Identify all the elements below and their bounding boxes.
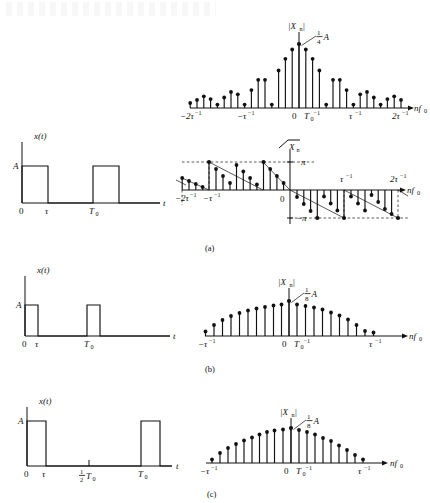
magnitude-b-label-bar2: | xyxy=(293,277,295,287)
phase-a-y-axis-label: X n xyxy=(279,140,300,153)
phase-tick-2tau: 2τ −1 xyxy=(390,172,407,184)
waveform-c-tick-tau: τ xyxy=(42,469,46,479)
tick-2tau-inv-a: 2τ −1 xyxy=(392,109,409,121)
tick-label-T0-a: T xyxy=(304,111,310,121)
tick-tau-inv-b: τ −1 xyxy=(369,337,382,349)
panel-a-phase-chart: X n π 0 −π −2τ −1 −τ −1 τ −1 2τ −1 xyxy=(175,140,420,224)
phase-a-tick-label-zero: 0 xyxy=(280,194,285,204)
waveform-c-tick-halfT0: 1 2 T 0 xyxy=(79,468,96,483)
waveform-a-pulse-train xyxy=(22,166,160,203)
phase-tick-neg2tau: −2τ −1 xyxy=(175,191,197,203)
magnitude-b-label-bar1: |X xyxy=(278,277,286,287)
magnitude-b-x-arrow xyxy=(402,334,408,339)
figure-canvas: |X n | 1 4 A −2τ −1 −τ −1 0 xyxy=(0,0,430,503)
magnitude-b-y-axis-label: |X n | xyxy=(278,277,295,288)
magnitude-c-y-axis-label: |X n | xyxy=(280,407,297,418)
caption-a: (a) xyxy=(205,243,215,253)
waveform-c-amplitude-label: A xyxy=(17,416,24,426)
peak-c-fraction-denominator: 8 xyxy=(307,422,311,430)
waveform-a-y-label: x(t) xyxy=(33,131,47,141)
panel-b-waveform-chart: x(t) A 0 τ T 0 t xyxy=(15,265,176,350)
peak-b-fraction-numerator: 1 xyxy=(305,286,309,294)
magnitude-b-x-axis-name: nf 0 xyxy=(409,331,422,342)
tick-label-tau-b: τ xyxy=(369,339,373,349)
panel-b-magnitude-chart: |X n | 1 8 A −τ −1 0 T 0 −1 τ −1 xyxy=(198,277,422,350)
magnitude-c-label-bar1: |X xyxy=(280,407,288,417)
peak-a-amplitude-symbol: A xyxy=(323,32,330,42)
phase-a-x-axis-name: nf 0 xyxy=(407,185,420,196)
phase-a-tick-label-pi: π xyxy=(301,157,306,167)
panel-c-magnitude-chart: |X n | 1 8 A −τ −1 0 T 0 −1 τ −1 xyxy=(200,407,403,477)
caption-b: (b) xyxy=(205,364,215,374)
waveform-c-tick-zero: 0 xyxy=(24,469,29,479)
panel-c-waveform-chart: x(t) A 0 τ 1 2 T 0 T 0 t xyxy=(17,396,179,483)
magnitude-c-x-axis-name: nf 0 xyxy=(390,458,403,469)
waveform-b-y-label: x(t) xyxy=(36,265,50,275)
tick-sub-T0-c: 0 xyxy=(303,470,306,477)
waveform-a-tick-T0-sub: 0 xyxy=(96,210,99,217)
peak-a-fraction-denominator: 4 xyxy=(317,38,321,46)
waveform-c-y-label: x(t) xyxy=(38,396,52,406)
phase-a-tick-label-negpi: −π xyxy=(296,213,307,223)
tick-tau-inv-c: τ −1 xyxy=(358,464,371,476)
axis-name-nf-sub-a: 0 xyxy=(424,107,427,114)
tick-label-tau-c: τ xyxy=(358,466,362,476)
magnitude-a-label-bar2: | xyxy=(303,21,305,31)
panel-a-magnitude-chart: |X n | 1 4 A −2τ −1 −τ −1 0 xyxy=(180,21,427,122)
tick-sup-tau-b: −1 xyxy=(375,337,382,344)
tick-neg-2tau-inv-a: −2τ −1 xyxy=(180,109,202,121)
phase-tick-label-tau: τ xyxy=(340,174,344,184)
waveform-a-tick-T0: T 0 xyxy=(89,206,99,217)
magnitude-c-label-bar2: | xyxy=(295,407,297,417)
waveform-c-x-axis-name: t xyxy=(176,461,179,471)
tick-label-zero-c: 0 xyxy=(284,466,289,476)
magnitude-b-stems xyxy=(204,299,376,336)
tick-sup-negtau-b: −1 xyxy=(209,337,216,344)
magnitude-c-x-ticks: −τ −1 0 T 0 −1 τ −1 nf 0 xyxy=(200,458,403,477)
phase-tick-sup-negtau: −1 xyxy=(214,191,221,198)
tick-label-negtau-c: −τ xyxy=(200,466,210,476)
waveform-a-tick-tau: τ xyxy=(45,206,49,216)
axis-name-nf-c: nf xyxy=(390,458,399,468)
tick-sup-negtau-a: −1 xyxy=(248,109,255,116)
tick-T0-inv-b: T 0 −1 xyxy=(294,337,310,350)
waveform-a-tick-T0-sym: T xyxy=(89,206,95,216)
tick-sup-neg2tau-a: −1 xyxy=(195,109,202,116)
tick-T0-inv-c: T 0 −1 xyxy=(296,464,312,477)
waveform-b-tick-T0-sym: T xyxy=(84,339,90,349)
tick-label-negtau-b: −τ xyxy=(198,339,208,349)
tick-tau-inv-a: τ −1 xyxy=(349,109,362,121)
tick-sup-tau-a: −1 xyxy=(355,109,362,116)
phase-tick-label-neg2tau: −2τ xyxy=(175,193,190,203)
magnitude-a-peak-callout: 1 4 A xyxy=(302,29,330,46)
waveform-c-pulse-train xyxy=(27,421,172,466)
waveform-a-x-axis-name: t xyxy=(163,198,166,208)
peak-b-amplitude-symbol: A xyxy=(311,289,318,299)
phase-tick-label-2tau: 2τ xyxy=(390,174,399,184)
tick-sup-negtau-c: −1 xyxy=(211,464,218,471)
axis-name-nf-b: nf xyxy=(409,331,418,341)
waveform-b-tick-zero: 0 xyxy=(22,339,27,349)
peak-c-fraction-numerator: 1 xyxy=(307,413,311,421)
tick-neg-tau-inv-b: −τ −1 xyxy=(198,337,216,349)
tick-label-T0-c: T xyxy=(296,466,302,476)
tick-sup-T0-b: −1 xyxy=(304,337,311,344)
phase-tick-label-negtau: −τ xyxy=(203,193,213,203)
tick-label-negtau-a: −τ xyxy=(237,111,247,121)
axis-name-nf-phase: nf xyxy=(407,185,416,195)
tick-sup-T0-a: −1 xyxy=(314,109,321,116)
halfT0-denominator: 2 xyxy=(80,476,83,483)
axis-name-nf-sub-b: 0 xyxy=(419,335,422,342)
peak-a-fraction-numerator: 1 xyxy=(317,29,321,37)
phase-tick-sup-neg2tau: −1 xyxy=(190,191,197,198)
tick-sub-T0-b: 0 xyxy=(301,343,304,350)
caption-c: (c) xyxy=(207,489,217,499)
waveform-b-amplitude-label: A xyxy=(15,300,22,310)
panel-a-waveform-chart: x(t) A 0 τ T 0 t xyxy=(12,131,166,217)
magnitude-a-stems xyxy=(188,42,403,108)
tick-label-tau-a: τ xyxy=(349,111,353,121)
phase-tick-negtau: −τ −1 xyxy=(203,191,221,203)
tick-label-T0-b: T xyxy=(294,339,300,349)
phase-a-label-sub: n xyxy=(297,146,300,153)
waveform-b-tick-tau: τ xyxy=(35,339,39,349)
